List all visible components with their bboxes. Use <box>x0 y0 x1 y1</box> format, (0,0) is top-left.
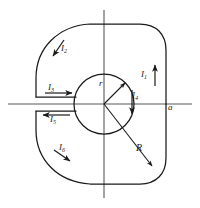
label-i5-subscript: 5 <box>53 119 56 125</box>
label-inner-radius: r <box>99 79 103 88</box>
label-i1: I1 <box>141 70 147 79</box>
current-loop-figure: I1 I2 I3 I4 I5 I6 r R a <box>0 0 200 208</box>
radius-dimension-group <box>104 83 152 166</box>
label-i1-subscript: 1 <box>144 74 147 80</box>
inner-radius-arrow <box>104 83 125 104</box>
label-outer-radius: R <box>136 143 142 153</box>
label-i4: I4 <box>132 91 138 100</box>
label-i3-subscript: 3 <box>51 87 54 93</box>
label-i2-subscript: 2 <box>64 48 67 54</box>
label-i6: I6 <box>59 143 65 152</box>
label-i2: I2 <box>61 44 67 53</box>
outer-radius-arrow <box>104 104 152 166</box>
label-i4-subscript: 4 <box>135 95 138 101</box>
label-axis-a: a <box>168 103 173 112</box>
label-i6-subscript: 6 <box>62 147 65 153</box>
label-i3: I3 <box>48 83 54 92</box>
outer-boundary-upper <box>36 24 166 104</box>
label-i5: I5 <box>50 115 56 124</box>
